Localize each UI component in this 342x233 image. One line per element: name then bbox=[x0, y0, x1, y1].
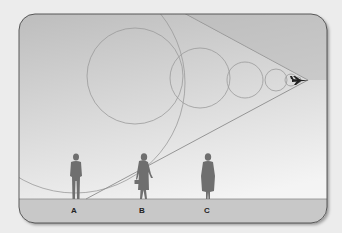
diagram-canvas bbox=[0, 0, 342, 233]
observer-b-label: B bbox=[139, 206, 145, 215]
observer-a-label: A bbox=[71, 206, 77, 215]
sonic-boom-diagram: A B C bbox=[0, 0, 342, 233]
observer-c-label: C bbox=[204, 206, 210, 215]
ground bbox=[19, 199, 327, 229]
